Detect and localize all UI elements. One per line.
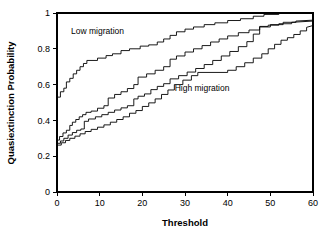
y-tick-label: 0.2 xyxy=(37,151,50,161)
y-tick-label: 1 xyxy=(45,8,50,18)
y-tick-label: 0.4 xyxy=(37,116,50,126)
y-tick-label: 0 xyxy=(45,187,50,197)
x-axis-ticks: 0102030405060 xyxy=(54,192,318,208)
y-tick-label: 0.8 xyxy=(37,44,50,54)
x-tick-label: 10 xyxy=(95,198,105,208)
series-annotation-label: High migration xyxy=(175,83,230,93)
quasiextinction-probability-chart: 00.20.40.60.81 0102030405060 Low migrati… xyxy=(0,0,334,233)
x-tick-label: 60 xyxy=(308,198,318,208)
axis-frame xyxy=(57,13,313,192)
chart-annotations: Low migrationHigh migration xyxy=(71,26,230,93)
series-annotation-label: Low migration xyxy=(71,26,124,36)
x-tick-label: 30 xyxy=(180,198,190,208)
x-tick-label: 40 xyxy=(223,198,233,208)
x-tick-label: 0 xyxy=(54,198,59,208)
x-tick-label: 20 xyxy=(137,198,147,208)
y-axis-title: Quasiextinction Probability xyxy=(5,41,16,165)
x-axis-title: Threshold xyxy=(162,217,208,228)
y-tick-label: 0.6 xyxy=(37,80,50,90)
chart-figure: 00.20.40.60.81 0102030405060 Low migrati… xyxy=(0,0,334,233)
x-tick-label: 50 xyxy=(265,198,275,208)
y-axis-ticks: 00.20.40.60.81 xyxy=(37,8,57,197)
plot-frame xyxy=(57,13,313,192)
